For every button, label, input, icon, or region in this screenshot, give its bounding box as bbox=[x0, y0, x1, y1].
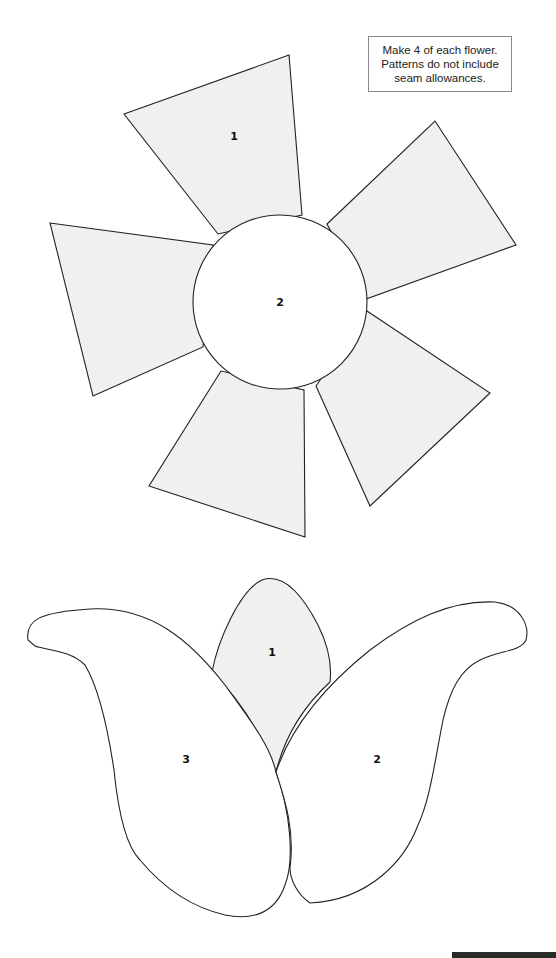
pattern-canvas: 1 2 1 2 3 bbox=[0, 0, 556, 958]
footer-bar bbox=[452, 952, 556, 958]
petal-label-1: 1 bbox=[230, 130, 238, 143]
tulip-label-2: 2 bbox=[373, 753, 381, 766]
petal-bottom-left bbox=[149, 371, 305, 537]
tulip-label-1: 1 bbox=[268, 646, 276, 659]
center-label-2: 2 bbox=[276, 296, 284, 309]
flower-b bbox=[28, 579, 527, 917]
tulip-label-3: 3 bbox=[182, 753, 190, 766]
petal-top bbox=[124, 55, 302, 234]
petal-left bbox=[50, 223, 213, 396]
